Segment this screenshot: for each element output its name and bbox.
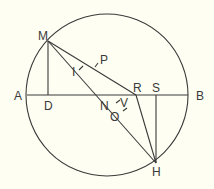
tick-I xyxy=(79,66,83,70)
label-P: P xyxy=(100,53,108,67)
label-H: H xyxy=(152,165,161,179)
label-S: S xyxy=(152,81,160,95)
label-I: I xyxy=(72,65,75,79)
label-D: D xyxy=(44,99,53,113)
label-A: A xyxy=(14,89,22,103)
label-V: V xyxy=(120,96,128,110)
geometry-diagram: M A D N R S B H P I V O xyxy=(0,0,214,189)
tick-P xyxy=(95,63,98,67)
label-B: B xyxy=(196,89,204,103)
segment-MR xyxy=(48,41,136,95)
label-M: M xyxy=(38,29,48,43)
segment-RH xyxy=(136,95,156,163)
label-N: N xyxy=(100,99,109,113)
label-R: R xyxy=(133,81,142,95)
label-O: O xyxy=(110,110,119,124)
